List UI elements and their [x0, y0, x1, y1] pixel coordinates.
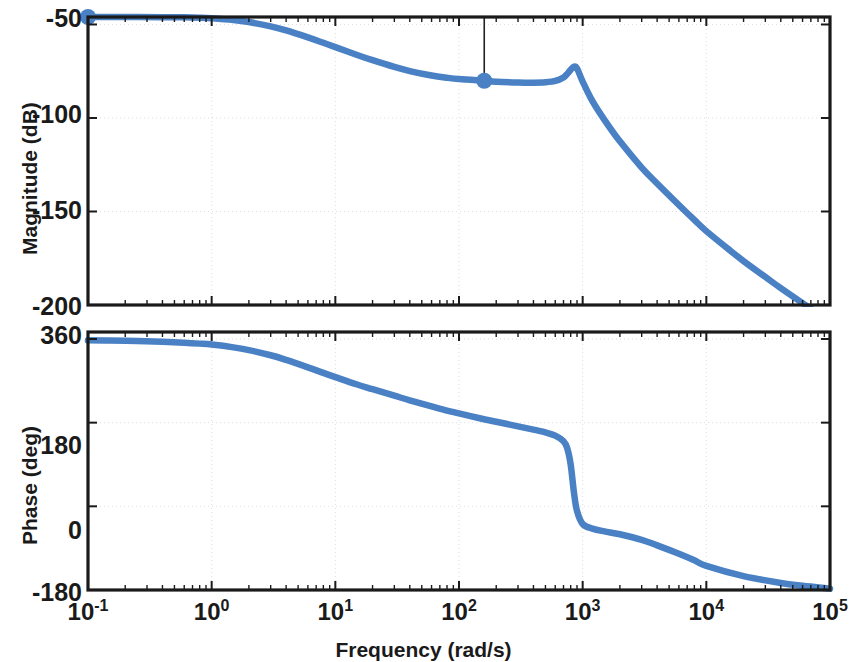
frequency-xtick-label-1: 100	[172, 598, 252, 626]
xtick-exponent: 1	[344, 597, 353, 614]
phase-axis-title: Phase (deg)	[18, 426, 42, 545]
frequency-xtick-label-0: 10-1	[48, 598, 128, 626]
xtick-exponent: 2	[468, 597, 477, 614]
data-cursor-marker	[476, 73, 492, 89]
frequency-axis-title: Frequency (rad/s)	[0, 638, 847, 662]
phase-ytick-label-0: 360	[12, 321, 82, 350]
xtick-mantissa: 10	[565, 598, 592, 625]
frequency-xtick-label-3: 102	[419, 598, 499, 626]
xtick-mantissa: 10	[812, 598, 839, 625]
xtick-mantissa: 10	[194, 598, 221, 625]
magnitude-ytick-label-3: -200	[2, 292, 82, 321]
frequency-xtick-label-2: 101	[295, 598, 375, 626]
xtick-mantissa: 10	[68, 598, 95, 625]
xtick-exponent: -1	[94, 597, 108, 614]
frequency-xtick-label-4: 103	[543, 598, 623, 626]
xtick-mantissa: 10	[441, 598, 468, 625]
xtick-exponent: 4	[715, 597, 724, 614]
xtick-exponent: 0	[221, 597, 230, 614]
xtick-mantissa: 10	[318, 598, 345, 625]
frequency-xtick-label-6: 105	[790, 598, 853, 626]
magnitude-ytick-label-2: -150	[2, 196, 82, 225]
xtick-exponent: 5	[839, 597, 848, 614]
magnitude-ytick-label-0: -50	[12, 4, 82, 33]
frequency-xtick-label-5: 104	[666, 598, 746, 626]
magnitude-ytick-label-1: -100	[2, 100, 82, 129]
xtick-mantissa: 10	[689, 598, 716, 625]
xtick-exponent: 3	[592, 597, 601, 614]
magnitude-axis-title: Magnitude (dB)	[18, 102, 42, 255]
